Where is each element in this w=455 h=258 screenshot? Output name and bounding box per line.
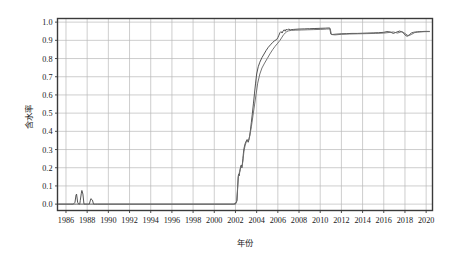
x-tick-label: 1996 <box>164 216 180 225</box>
x-tick-label: 2012 <box>333 216 349 225</box>
x-tick-label: 2000 <box>206 216 222 225</box>
y-tick-label: 1.0 <box>42 18 52 27</box>
water-content-line-chart: 0.00.10.20.30.40.50.60.70.80.91.0 198619… <box>0 0 455 258</box>
x-tick-label: 1986 <box>58 216 74 225</box>
y-tick-label: 0.2 <box>42 164 52 173</box>
x-tick-label: 2018 <box>397 216 413 225</box>
x-tick-label: 2004 <box>248 216 264 225</box>
chart-figure: 0.00.10.20.30.40.50.60.70.80.91.0 198619… <box>0 0 455 258</box>
y-tick-label: 0.6 <box>42 91 52 100</box>
y-tick-label: 0.1 <box>42 182 52 191</box>
y-tick-label: 0.0 <box>42 200 52 209</box>
y-tick-label: 0.4 <box>42 127 52 136</box>
x-tick-label: 2016 <box>376 216 392 225</box>
x-tick-label: 2006 <box>270 216 286 225</box>
x-tick-label: 1994 <box>143 216 159 225</box>
y-axis-title: 含水率 <box>24 105 34 129</box>
y-tick-label: 0.5 <box>42 109 52 118</box>
x-tick-label: 1990 <box>100 216 116 225</box>
x-axis-title: 年份 <box>237 238 254 248</box>
x-tick-label: 1998 <box>185 216 201 225</box>
x-tick-label: 1992 <box>121 216 137 225</box>
y-tick-label: 0.3 <box>42 146 52 155</box>
x-tick-label: 2020 <box>418 216 434 225</box>
x-tick-label: 1988 <box>79 216 95 225</box>
y-tick-label: 0.7 <box>42 73 52 82</box>
y-tick-label: 0.8 <box>42 55 52 64</box>
x-tick-label: 2008 <box>291 216 307 225</box>
x-tick-label: 2014 <box>354 216 370 225</box>
x-tick-label: 2002 <box>227 216 243 225</box>
y-tick-label: 0.9 <box>42 36 52 45</box>
x-tick-label: 2010 <box>312 216 328 225</box>
